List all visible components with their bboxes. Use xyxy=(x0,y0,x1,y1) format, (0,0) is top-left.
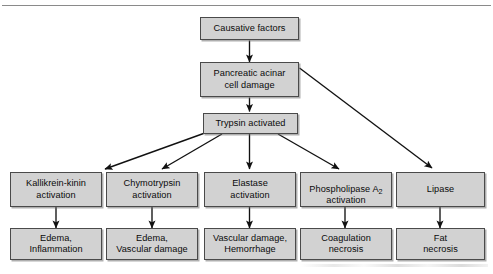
scan-artifact xyxy=(300,264,488,267)
node-elastase-activation: Elastase activation xyxy=(204,172,296,207)
node-acinar-damage-label: Pancreatic acinar cell damage xyxy=(211,68,289,91)
node-phospholipase-a2-activation-label: Phospholipase A xyxy=(309,184,378,194)
node-vascular-damage-hemorrhage: Vascular damage, Hemorrhage xyxy=(204,228,296,260)
node-phospholipase-a2-activation-label2: activation xyxy=(326,195,365,205)
node-edema-vascular-damage: Edema, Vascular damage xyxy=(106,228,198,260)
node-chymotrypsin-activation-label: Chymotrypsin activation xyxy=(121,178,184,201)
node-causative-factors: Causative factors xyxy=(200,17,299,40)
edge-trypsin-to-kallikrein xyxy=(105,134,204,170)
node-coagulation-necrosis-label: Coagulation necrosis xyxy=(318,233,374,256)
node-phospholipase-a2-activation: Phospholipase A2activation xyxy=(300,172,392,207)
edge-acinar-to-lipase xyxy=(300,68,433,168)
node-acinar-damage: Pancreatic acinar cell damage xyxy=(200,62,299,97)
edge-trypsin-to-chymotrypsin xyxy=(162,134,222,169)
node-lipase: Lipase xyxy=(396,172,485,207)
node-edema-inflammation-label: Edema, Inflammation xyxy=(26,233,85,256)
node-lipase-label: Lipase xyxy=(424,184,457,195)
node-trypsin-activated: Trypsin activated xyxy=(203,113,298,134)
node-trypsin-activated-label: Trypsin activated xyxy=(213,118,289,129)
node-elastase-activation-label: Elastase activation xyxy=(227,178,272,201)
node-kallikrein-kinin-activation-label: Kallikrein-kinin activation xyxy=(23,178,89,201)
phospholipase-subscript: 2 xyxy=(379,187,383,196)
node-kallikrein-kinin-activation: Kallikrein-kinin activation xyxy=(10,172,102,207)
node-causative-factors-label: Causative factors xyxy=(211,23,289,34)
node-fat-necrosis: Fat necrosis xyxy=(396,228,485,260)
flowchart-canvas: Causative factors Pancreatic acinar cell… xyxy=(0,0,493,274)
node-coagulation-necrosis: Coagulation necrosis xyxy=(300,228,392,260)
node-fat-necrosis-label: Fat necrosis xyxy=(420,233,461,256)
node-chymotrypsin-activation: Chymotrypsin activation xyxy=(106,172,198,207)
edge-trypsin-to-phospholipase xyxy=(278,134,339,169)
node-edema-vascular-damage-label: Edema, Vascular damage xyxy=(113,233,191,256)
node-vascular-damage-hemorrhage-label: Vascular damage, Hemorrhage xyxy=(210,233,290,256)
node-edema-inflammation: Edema, Inflammation xyxy=(10,228,102,260)
